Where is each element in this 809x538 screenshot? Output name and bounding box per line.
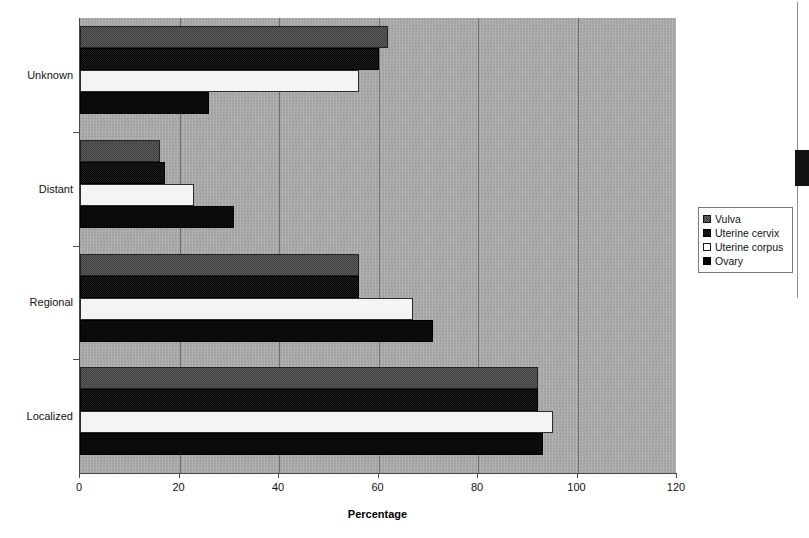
legend-item-uterine-corpus[interactable]: Uterine corpus: [703, 240, 788, 254]
gridline-100: [578, 18, 579, 473]
bar-localized-ovary: [80, 433, 543, 455]
x-tick-label-0: 0: [76, 481, 82, 493]
y-tick-1: [73, 132, 79, 133]
legend-swatch-icon-uterine-corpus: [703, 243, 711, 251]
bar-regional-uterine-corpus: [80, 298, 413, 320]
y-category-label-distant: Distant: [39, 183, 73, 195]
bar-distant-uterine-cervix: [80, 162, 165, 184]
x-tick-40: [278, 473, 279, 478]
y-tick-3: [73, 359, 79, 360]
bar-regional-uterine-cervix: [80, 276, 359, 298]
legend-swatch-icon-ovary: [703, 257, 711, 265]
plot-area: [79, 18, 676, 473]
bar-localized-uterine-corpus: [80, 411, 553, 433]
x-tick-80: [477, 473, 478, 478]
bar-distant-uterine-corpus: [80, 184, 194, 206]
legend-swatch-icon-vulva: [703, 215, 711, 223]
bar-localized-uterine-cervix: [80, 389, 538, 411]
y-category-label-regional: Regional: [30, 296, 73, 308]
bar-unknown-uterine-corpus: [80, 70, 359, 92]
y-category-label-localized: Localized: [27, 410, 73, 422]
x-tick-label-120: 120: [667, 481, 685, 493]
bar-distant-vulva: [80, 140, 160, 162]
legend-item-vulva[interactable]: Vulva: [703, 212, 788, 226]
x-axis-title: Percentage: [79, 508, 676, 520]
chart-legend: Vulva Uterine cervix Uterine corpus Ovar…: [698, 207, 793, 273]
x-tick-label-100: 100: [567, 481, 585, 493]
legend-label-ovary: Ovary: [715, 256, 743, 267]
bar-regional-vulva: [80, 254, 359, 276]
x-tick-label-20: 20: [172, 481, 184, 493]
bar-distant-ovary: [80, 206, 234, 228]
legend-swatch-icon-uterine-cervix: [703, 229, 711, 237]
x-tick-0: [79, 473, 80, 478]
y-category-label-unknown: Unknown: [27, 69, 73, 81]
legend-label-uterine-cervix: Uterine cervix: [715, 228, 779, 239]
legend-item-ovary[interactable]: Ovary: [703, 254, 788, 268]
bar-unknown-ovary: [80, 92, 209, 114]
x-tick-100: [577, 473, 578, 478]
y-tick-2: [73, 246, 79, 247]
bar-chart-figure: 020406080100120UnknownDistantRegionalLoc…: [0, 0, 809, 538]
x-tick-label-60: 60: [371, 481, 383, 493]
x-tick-120: [676, 473, 677, 478]
bar-regional-ovary: [80, 320, 433, 342]
legend-label-vulva: Vulva: [715, 214, 741, 225]
bar-unknown-vulva: [80, 26, 388, 48]
legend-item-uterine-cervix[interactable]: Uterine cervix: [703, 226, 788, 240]
bar-unknown-uterine-cervix: [80, 48, 379, 70]
x-tick-label-80: 80: [471, 481, 483, 493]
bar-localized-vulva: [80, 367, 538, 389]
x-tick-20: [179, 473, 180, 478]
scan-edge-artifact-block: [795, 150, 809, 186]
x-tick-label-40: 40: [272, 481, 284, 493]
x-tick-60: [378, 473, 379, 478]
legend-label-uterine-corpus: Uterine corpus: [715, 242, 783, 253]
